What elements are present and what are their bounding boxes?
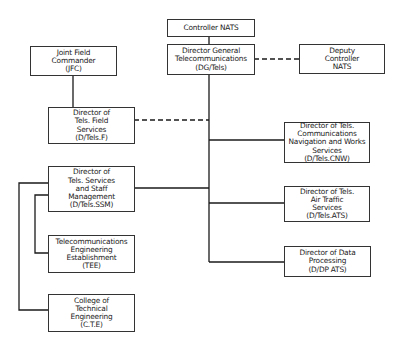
node-deputy-controller-nats: Deputy Controller NATS [299, 44, 385, 74]
node-director-tels-services-staff-management: Director of Tels. Services and Staff Man… [48, 166, 135, 212]
node-label: (DG/Tels) [195, 64, 227, 72]
node-director-general-telecoms: Director General Telecommunications (DG/… [167, 44, 255, 75]
node-telecoms-engineering-establishment: Telecommunications Engineering Establish… [48, 235, 135, 273]
node-director-tels-air-traffic-services: Director of Tels. Air Traffic Services (… [284, 186, 370, 222]
line-ssm-tee [35, 195, 48, 253]
node-label: (D/DP ATS) [308, 266, 346, 274]
node-controller-nats: Controller NATS [167, 19, 255, 37]
node-label: (D/Tels.ATS) [306, 212, 347, 220]
node-label: (D/Tels.F) [75, 134, 107, 142]
node-director-data-processing: Director of Data Processing (D/DP ATS) [284, 246, 371, 277]
node-director-tels-field-services: Director of Tels. Field Services (D/Tels… [48, 107, 135, 144]
line-ssm-cte [19, 183, 48, 310]
node-label: (TEE) [82, 262, 101, 270]
node-label: (D/Tels.CNW) [304, 155, 350, 163]
node-director-tels-cnw: Director of Tels. Communications Navigat… [284, 122, 370, 163]
node-label: (JFC) [65, 65, 81, 73]
node-label: (D/Tels.SSM) [70, 201, 113, 209]
node-label: Controller NATS [184, 24, 239, 32]
node-label: (C.T.E) [80, 321, 103, 329]
node-college-technical-engineering: College of Technical Engineering (C.T.E) [48, 294, 135, 332]
node-label: NATS [333, 63, 351, 71]
node-joint-field-commander: Joint Field Commander (JFC) [30, 46, 117, 76]
